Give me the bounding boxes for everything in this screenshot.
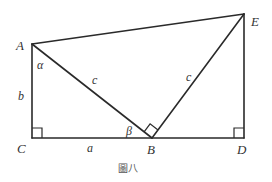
side-label-a: a: [87, 141, 93, 155]
right-angle-marker-D: [234, 128, 244, 138]
segment-AB: [32, 44, 152, 138]
vertex-label-B: B: [147, 142, 155, 157]
segment-BE: [152, 14, 244, 138]
figure-caption: 圖八: [118, 163, 138, 174]
right-angle-marker-C: [32, 128, 42, 138]
side-label-b: b: [18, 89, 24, 103]
vertex-label-D: D: [236, 142, 247, 157]
side-label-c-AB: c: [92, 73, 98, 87]
segment-EA: [32, 14, 244, 44]
angle-label-beta: β: [125, 124, 132, 138]
angle-label-alpha: α: [37, 58, 44, 72]
geometry-diagram: A C B D E b a c c α β 圖八: [0, 0, 272, 182]
right-angle-marker-B: [144, 124, 158, 132]
vertex-label-A: A: [15, 38, 24, 53]
vertex-label-C: C: [17, 141, 26, 156]
side-label-c-BE: c: [186, 70, 192, 84]
vertex-label-E: E: [250, 14, 259, 29]
